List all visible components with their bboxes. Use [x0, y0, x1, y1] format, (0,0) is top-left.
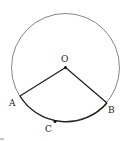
point-o: [64, 66, 67, 69]
circle-diagram: O A B C: [0, 0, 128, 141]
arc-acb: [20, 96, 107, 122]
label-a: A: [8, 98, 16, 108]
point-c: [54, 120, 57, 123]
label-o: O: [61, 54, 68, 64]
radius-oa: [20, 68, 66, 97]
label-b: B: [108, 105, 115, 115]
label-c: C: [45, 124, 52, 134]
radius-ob: [66, 68, 108, 104]
